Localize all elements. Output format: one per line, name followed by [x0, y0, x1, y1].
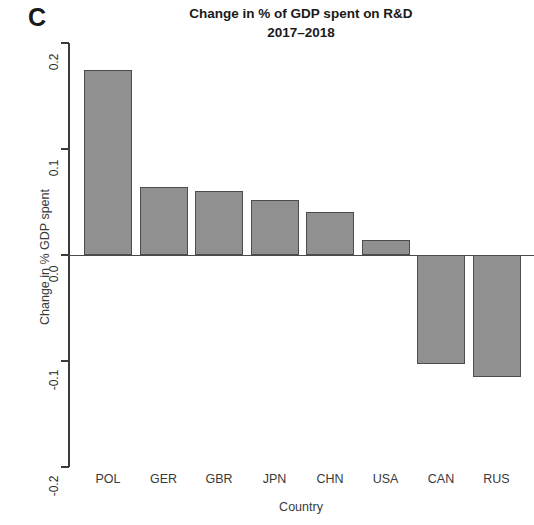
bar	[417, 255, 465, 364]
bar	[84, 70, 132, 256]
bar	[306, 212, 354, 255]
bar	[251, 200, 299, 255]
x-axis-title: Country	[68, 500, 534, 514]
bar	[473, 255, 521, 377]
plot-area: 0.20.10.0-0.1-0.2 POLGERGBRJPNCHNUSACANR…	[0, 0, 534, 525]
y-axis-tick	[61, 148, 69, 150]
y-axis-tick	[61, 254, 69, 256]
y-axis-tick	[61, 360, 69, 362]
y-axis-tick-label: -0.2	[47, 466, 61, 506]
bar	[362, 240, 410, 255]
y-axis-tick	[61, 42, 69, 44]
y-axis-tick	[61, 466, 69, 468]
y-axis-title: Change in % GDP spent	[38, 127, 52, 387]
bar	[140, 187, 188, 255]
bar	[195, 191, 243, 255]
figure-panel: C Change in % of GDP spent on R&D 2017–2…	[0, 0, 534, 525]
x-axis-tick-label: RUS	[463, 472, 531, 486]
y-axis-tick-label: 0.2	[47, 42, 61, 82]
